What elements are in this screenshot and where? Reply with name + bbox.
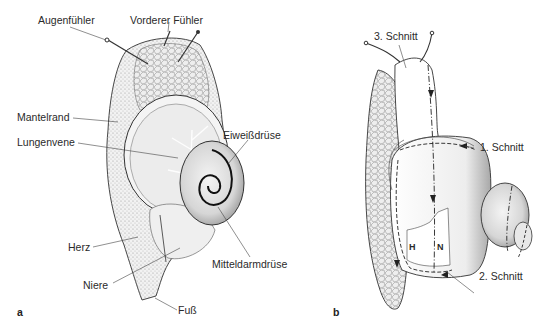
label-mitteldarmdruese: Mitteldarmdrüse [212,258,287,270]
label-lungenvene: Lungenvene [17,136,75,148]
snail-illustration [0,0,541,326]
label-n: N [437,241,444,253]
shell-a [180,141,244,225]
panel-b-drawing [364,31,532,309]
label-1-schnitt: 1. Schnitt [480,141,524,153]
label-mantelrand: Mantelrand [17,111,70,123]
label-h: H [409,241,416,253]
label-augenfuehler: Augenfühler [38,14,95,26]
label-vorderer-fuehler: Vorderer Fühler [130,14,203,26]
panel-letter-b: b [333,306,339,318]
panel-letter-a: a [17,306,23,318]
label-herz: Herz [68,241,90,253]
label-2-schnitt: 2. Schnitt [479,270,523,282]
label-3-schnitt: 3. Schnitt [374,30,418,42]
label-fuss: Fuß [178,304,197,316]
label-eiweissdruese: Eiweißdrüse [223,129,281,141]
label-niere: Niere [83,279,108,291]
